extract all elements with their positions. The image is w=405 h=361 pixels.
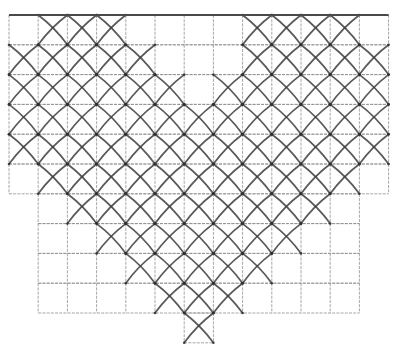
lattice-node — [241, 222, 244, 225]
lattice-node — [387, 103, 390, 106]
lattice-node — [154, 103, 157, 106]
lattice-node — [183, 252, 186, 255]
lattice-node — [387, 73, 390, 76]
lattice-node — [212, 252, 215, 255]
lattice-node — [95, 252, 98, 255]
sketch-canvas — [0, 0, 405, 361]
lattice-node — [125, 103, 128, 106]
lattice-node — [387, 163, 390, 166]
lattice-node — [183, 342, 186, 345]
lattice-node — [154, 193, 157, 196]
lattice-node — [329, 222, 332, 225]
lattice-node — [329, 193, 332, 196]
lattice-node — [8, 44, 11, 47]
lattice-node — [66, 73, 69, 76]
lattice-node — [271, 103, 274, 106]
lattice-node — [125, 44, 128, 47]
lattice-node — [183, 222, 186, 225]
lattice-node — [212, 103, 215, 106]
lattice-node — [241, 312, 244, 315]
lattice-node — [37, 73, 40, 76]
lattice-node — [300, 44, 303, 47]
lattice-node — [329, 44, 332, 47]
lattice-node — [329, 133, 332, 136]
lattice-node — [8, 103, 11, 106]
lattice-node — [241, 133, 244, 136]
lattice-node — [183, 133, 186, 136]
lattice-node — [125, 282, 128, 285]
lattice-node — [66, 44, 69, 47]
lattice-node — [37, 103, 40, 106]
lattice-node — [271, 252, 274, 255]
lattice-node — [358, 73, 361, 76]
lattice-node — [66, 103, 69, 106]
lattice-node — [241, 163, 244, 166]
lattice-node — [183, 282, 186, 285]
lattice-node — [154, 312, 157, 315]
lattice-node — [358, 163, 361, 166]
lattice-node — [271, 133, 274, 136]
lattice-node — [37, 163, 40, 166]
lattice-node — [358, 103, 361, 106]
lattice-node — [154, 252, 157, 255]
lattice-node — [212, 282, 215, 285]
lattice-node — [212, 73, 215, 76]
lattice-node — [95, 103, 98, 106]
lattice-node — [183, 163, 186, 166]
lattice-node — [125, 163, 128, 166]
lattice-node — [154, 133, 157, 136]
lattice-node — [241, 282, 244, 285]
lattice-node — [154, 222, 157, 225]
lattice-node — [212, 193, 215, 196]
lattice-node — [183, 193, 186, 196]
lattice-node — [241, 103, 244, 106]
lattice-node — [95, 133, 98, 136]
lattice-node — [212, 342, 215, 345]
lattice-node — [300, 252, 303, 255]
lattice-node — [66, 222, 69, 225]
lattice-node — [300, 103, 303, 106]
lattice-node — [95, 193, 98, 196]
lattice-node — [8, 163, 11, 166]
lattice-node — [387, 44, 390, 47]
lattice-node — [154, 44, 157, 47]
lattice-node — [300, 133, 303, 136]
lattice-node — [241, 44, 244, 47]
lattice-node — [95, 73, 98, 76]
lattice-node — [329, 73, 332, 76]
lattice-node — [95, 163, 98, 166]
lattice-node — [95, 44, 98, 47]
lattice-node — [8, 73, 11, 76]
lattice-node — [8, 133, 11, 136]
lattice-node — [66, 133, 69, 136]
lattice-node — [125, 73, 128, 76]
lattice-node — [300, 163, 303, 166]
lattice-node — [329, 163, 332, 166]
lattice-node — [37, 133, 40, 136]
lattice-node — [241, 73, 244, 76]
lattice-node — [271, 193, 274, 196]
lattice-node — [66, 163, 69, 166]
lattice-node — [271, 282, 274, 285]
lattice-node — [37, 193, 40, 196]
lattice-node — [271, 163, 274, 166]
lattice-node — [125, 133, 128, 136]
lattice-node — [271, 44, 274, 47]
lattice-node — [271, 73, 274, 76]
lattice-node — [241, 193, 244, 196]
lattice-node — [329, 103, 332, 106]
lattice-node — [154, 282, 157, 285]
lattice-node — [154, 163, 157, 166]
lattice-node — [300, 222, 303, 225]
lattice-node — [125, 252, 128, 255]
lattice-node — [183, 103, 186, 106]
lattice-node — [125, 193, 128, 196]
lattice-node — [387, 133, 390, 136]
grid-lattice-drawing — [0, 0, 405, 361]
lattice-node — [212, 312, 215, 315]
lattice-node — [358, 133, 361, 136]
lattice-node — [66, 193, 69, 196]
lattice-node — [358, 193, 361, 196]
lattice-node — [212, 133, 215, 136]
lattice-node — [358, 44, 361, 47]
